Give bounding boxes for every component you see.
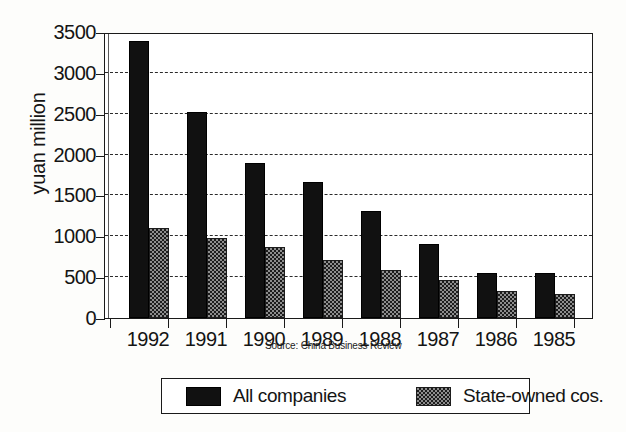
y-axis-tick-label: 2000 bbox=[26, 144, 96, 167]
bar bbox=[323, 260, 343, 318]
bar-group bbox=[361, 211, 401, 318]
y-axis-tick-mark bbox=[96, 319, 105, 320]
x-axis-tick-mark bbox=[574, 319, 575, 328]
x-axis-tick-mark bbox=[284, 319, 285, 328]
x-axis-tick-mark bbox=[400, 319, 401, 328]
bar bbox=[535, 273, 555, 318]
gridline bbox=[105, 154, 592, 155]
y-axis-tick-label: 3000 bbox=[26, 62, 96, 85]
bar bbox=[265, 247, 285, 318]
bar-group bbox=[477, 273, 517, 318]
legend-label-all-companies: All companies bbox=[233, 385, 346, 407]
gridline bbox=[105, 113, 592, 114]
bar bbox=[207, 238, 227, 318]
legend-label-state-owned: State-owned cos. bbox=[463, 385, 603, 407]
gridline bbox=[105, 72, 592, 73]
bar bbox=[245, 163, 265, 318]
bar bbox=[149, 228, 169, 318]
bar bbox=[381, 270, 401, 318]
y-axis-tick-label: 1000 bbox=[26, 225, 96, 248]
gridline bbox=[105, 276, 592, 277]
source-note: Source: China Business Review bbox=[265, 340, 402, 351]
chart-legend: All companies State-owned cos. bbox=[161, 378, 530, 414]
y-axis-tick-label: 2500 bbox=[26, 103, 96, 126]
bar bbox=[477, 273, 497, 318]
legend-swatch-state-owned-icon bbox=[416, 387, 451, 406]
bar bbox=[497, 291, 517, 318]
y-axis-tick-label: 3500 bbox=[26, 21, 96, 44]
x-axis-tick-mark bbox=[516, 319, 517, 328]
x-axis-tick-mark bbox=[168, 319, 169, 328]
x-axis-tick-mark bbox=[458, 319, 459, 328]
x-axis-tick-mark bbox=[342, 319, 343, 328]
bar bbox=[555, 294, 575, 319]
y-axis-tick-label: 1500 bbox=[26, 184, 96, 207]
legend-item-all-companies: All companies bbox=[186, 385, 346, 407]
bar bbox=[303, 182, 323, 318]
bar-group bbox=[303, 182, 343, 318]
bar-group bbox=[419, 244, 459, 318]
bar bbox=[361, 211, 381, 318]
bar-group bbox=[129, 41, 169, 318]
gridline bbox=[105, 235, 592, 236]
x-axis-tick-label: 1985 bbox=[518, 328, 590, 351]
y-axis-tick-label: 500 bbox=[26, 266, 96, 289]
bar bbox=[419, 244, 439, 318]
chart-page: yuan million 050010001500200025003000350… bbox=[0, 0, 626, 432]
bar-group bbox=[245, 163, 285, 318]
y-axis-tick-label: 0 bbox=[26, 307, 96, 330]
bar-group bbox=[535, 273, 575, 318]
bar bbox=[187, 112, 207, 318]
plot-area bbox=[104, 33, 593, 319]
gridline bbox=[105, 194, 592, 195]
legend-swatch-all-companies-icon bbox=[186, 387, 221, 406]
bar bbox=[439, 280, 459, 318]
legend-item-state-owned: State-owned cos. bbox=[416, 385, 603, 407]
bar bbox=[129, 41, 149, 318]
x-axis-tick-mark bbox=[110, 319, 111, 328]
x-axis-tick-mark bbox=[226, 319, 227, 328]
bar-group bbox=[187, 112, 227, 318]
